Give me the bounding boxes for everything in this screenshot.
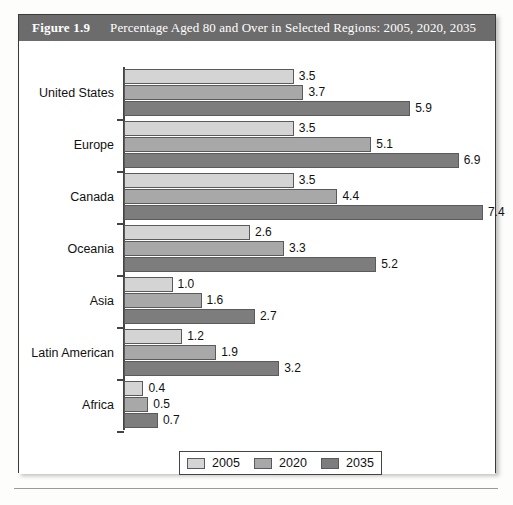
category-label: Africa [19,379,114,431]
bar-2020[interactable] [124,85,303,100]
axis-tick [117,431,124,433]
category-label: Canada [19,171,114,223]
bar-2035[interactable] [124,361,279,376]
page-bottom-rule [14,488,498,489]
bar-2020[interactable] [124,189,337,204]
figure-title: Percentage Aged 80 and Over in Selected … [110,20,476,36]
bar-group: Africa0.40.50.7 [19,379,495,431]
bar-value-label: 3.7 [308,85,325,100]
bar-value-label: 0.4 [148,381,165,396]
category-label: Latin American [19,327,114,379]
legend-item-2035[interactable]: 2035 [321,456,374,470]
legend-swatch-icon-2005 [187,458,205,469]
legend-label-2035: 2035 [346,456,374,470]
bar-value-label: 7.4 [488,205,505,220]
bar-group: Asia1.01.62.7 [19,275,495,327]
chart-plot-area: United States3.53.75.9Europe3.55.16.9Can… [19,41,495,474]
axis-tick [117,119,124,121]
bar-value-label: 5.9 [415,101,432,116]
bar-2020[interactable] [124,241,284,256]
legend-swatch-icon-2020 [254,458,272,469]
bar-2005[interactable] [124,329,182,344]
bar-2035[interactable] [124,153,459,168]
axis-tick [117,223,124,225]
bar-2035[interactable] [124,309,255,324]
bar-2020[interactable] [124,345,216,360]
bar-2005[interactable] [124,277,173,292]
legend-item-2005[interactable]: 2005 [187,456,240,470]
bar-value-label: 3.5 [299,173,316,188]
category-label: Oceania [19,223,114,275]
bar-group: Latin American1.21.93.2 [19,327,495,379]
chart-legend: 2005 2020 2035 [179,451,382,475]
bar-value-label: 5.1 [376,137,393,152]
bar-value-label: 0.5 [153,397,170,412]
bar-2005[interactable] [124,173,294,188]
axis-tick [117,327,124,329]
bar-value-label: 3.3 [289,241,306,256]
bar-value-label: 6.9 [464,153,481,168]
bar-2035[interactable] [124,205,483,220]
bar-value-label: 1.2 [187,329,204,344]
legend-label-2020: 2020 [279,456,307,470]
figure-label: Figure 1.9 [32,20,90,36]
bar-value-label: 4.4 [342,189,359,204]
bar-2005[interactable] [124,225,250,240]
bar-2005[interactable] [124,69,294,84]
bar-value-label: 2.7 [260,309,277,324]
bar-value-label: 2.6 [255,225,272,240]
bar-value-label: 1.9 [221,345,238,360]
bar-value-label: 5.2 [381,257,398,272]
bar-2035[interactable] [124,257,376,272]
figure-header: Figure 1.9 Percentage Aged 80 and Over i… [19,15,495,41]
figure-container: Figure 1.9 Percentage Aged 80 and Over i… [18,14,496,473]
category-label: Europe [19,119,114,171]
bar-2035[interactable] [124,101,410,116]
page: Figure 1.9 Percentage Aged 80 and Over i… [0,0,513,505]
bar-2020[interactable] [124,137,371,152]
category-label: Asia [19,275,114,327]
bar-2005[interactable] [124,121,294,136]
legend-swatch-icon-2035 [321,458,339,469]
axis-tick [117,379,124,381]
bar-group: Oceania2.63.35.2 [19,223,495,275]
axis-tick [117,275,124,277]
bar-value-label: 0.7 [163,413,180,428]
bar-2020[interactable] [124,397,148,412]
legend-label-2005: 2005 [212,456,240,470]
legend-item-2020[interactable]: 2020 [254,456,307,470]
bar-value-label: 1.0 [178,277,195,292]
bar-group: United States3.53.75.9 [19,67,495,119]
bar-2005[interactable] [124,381,143,396]
bar-2020[interactable] [124,293,202,308]
bar-value-label: 3.5 [299,121,316,136]
category-label: United States [19,67,114,119]
bar-group: Europe3.55.16.9 [19,119,495,171]
bar-value-label: 3.2 [284,361,301,376]
axis-tick [117,171,124,173]
bar-2035[interactable] [124,413,158,428]
bar-group: Canada3.54.47.4 [19,171,495,223]
bar-value-label: 3.5 [299,69,316,84]
bar-value-label: 1.6 [207,293,224,308]
